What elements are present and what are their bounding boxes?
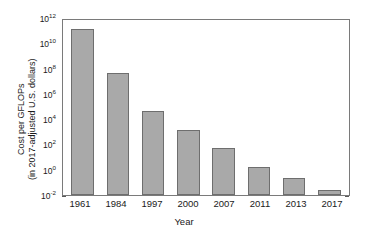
x-axis-tick-label: 1984	[96, 199, 136, 209]
bar	[142, 111, 164, 195]
x-axis-tick-label: 1961	[60, 199, 100, 209]
bar	[71, 29, 93, 195]
x-axis-tick-label: 2013	[276, 199, 316, 209]
chart-figure: 10-2100102104106108101010121961198419972…	[0, 0, 368, 236]
x-axis-tick-label: 2007	[204, 199, 244, 209]
y-axis-label-line-1: Cost per GFLOPs	[16, 29, 27, 209]
y-axis-label-line-2: (in 2017-adjusted U.S. dollars)	[27, 29, 38, 209]
y-axis-tick-mark-right	[345, 196, 349, 197]
x-axis-tick-label: 2000	[168, 199, 208, 209]
bar	[248, 167, 270, 195]
x-axis-label: Year	[0, 216, 368, 227]
x-axis-tick-label: 1997	[132, 199, 172, 209]
x-axis-tick-label: 2017	[312, 199, 352, 209]
x-axis-tick-label: 2011	[240, 199, 280, 209]
plot-area	[62, 19, 350, 196]
bar	[283, 178, 305, 195]
bar-series	[63, 20, 349, 195]
bar	[318, 190, 340, 195]
bar	[107, 73, 129, 195]
y-axis-tick-label: 1012	[10, 15, 56, 24]
y-axis-tick-mark	[62, 196, 66, 197]
bar	[212, 148, 234, 195]
y-axis-label: Cost per GFLOPs (in 2017-adjusted U.S. d…	[16, 29, 39, 209]
bar	[177, 130, 199, 195]
